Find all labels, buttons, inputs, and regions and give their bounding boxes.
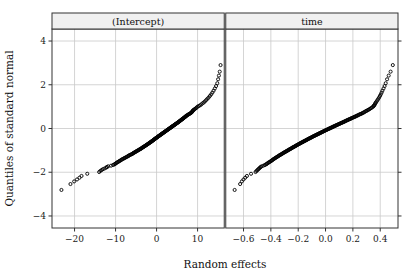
x-tick-label: 10 — [192, 234, 204, 244]
y-tick-label: 4 — [40, 36, 46, 46]
y-tick-label: 2 — [40, 80, 46, 90]
plot-canvas: (Intercept)−20−10010time−0.6−0.4−0.20.00… — [0, 0, 418, 279]
x-axis-title: Random effects — [184, 258, 267, 270]
y-tick-label: −2 — [33, 167, 46, 177]
x-tick-label: −0.6 — [233, 234, 255, 244]
x-tick-label: 0.0 — [318, 234, 333, 244]
strip-label-intercept: (Intercept) — [112, 16, 164, 27]
x-tick-label: −0.4 — [260, 234, 282, 244]
x-tick-label: −10 — [106, 234, 125, 244]
qq-plot-figure: (Intercept)−20−10010time−0.6−0.4−0.20.00… — [0, 0, 418, 279]
x-tick-label: −20 — [65, 234, 84, 244]
x-tick-label: 0 — [154, 234, 160, 244]
y-tick-label: 0 — [40, 124, 46, 134]
y-axis-title: Quantiles of standard normal — [3, 50, 15, 207]
x-tick-label: 0.4 — [373, 234, 388, 244]
strip-label-time: time — [301, 16, 323, 27]
y-tick-label: −4 — [33, 211, 47, 221]
x-tick-label: 0.2 — [346, 234, 360, 244]
x-tick-label: −0.2 — [287, 234, 309, 244]
